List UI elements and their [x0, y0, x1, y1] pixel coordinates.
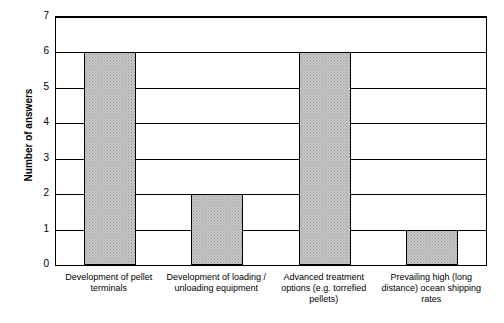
- bar-fill: [192, 195, 242, 264]
- y-tick-label: 2: [29, 188, 49, 198]
- y-tick-label: 1: [29, 224, 49, 234]
- x-category-label-line: Development of pellet: [55, 272, 163, 283]
- gridline: [56, 17, 486, 18]
- x-category-label-line: distance) ocean shipping: [378, 283, 486, 294]
- y-tick-label: 7: [29, 11, 49, 21]
- y-tick-label: 5: [29, 82, 49, 92]
- bar-fill: [407, 231, 457, 264]
- x-category-label-line: terminals: [55, 283, 163, 294]
- x-category-label-line: Advanced treatment: [270, 272, 378, 283]
- y-tick-label: 6: [29, 46, 49, 56]
- y-tick-label: 3: [29, 153, 49, 163]
- bar-chart: Number of answers 01234567Development of…: [0, 0, 504, 323]
- bar-fill: [300, 53, 350, 264]
- bar: [191, 194, 243, 265]
- y-tick-label: 0: [29, 259, 49, 269]
- x-category-label-line: unloading equipment: [163, 283, 271, 294]
- x-category-label-line: Prevailing high (long: [378, 272, 486, 283]
- x-category-label-line: rates: [378, 294, 486, 305]
- bar: [406, 230, 458, 265]
- x-category-label-line: options (e.g. torrefied: [270, 283, 378, 294]
- bar: [84, 52, 136, 265]
- x-category-label-line: pellets): [270, 294, 378, 305]
- x-category-label: Prevailing high (longdistance) ocean shi…: [378, 272, 486, 305]
- bar: [299, 52, 351, 265]
- x-category-label: Development of pelletterminals: [55, 272, 163, 294]
- bar-fill: [85, 53, 135, 264]
- plot-area: [55, 16, 487, 266]
- x-category-label: Development of loading /unloading equipm…: [163, 272, 271, 294]
- y-tick-label: 4: [29, 117, 49, 127]
- x-category-label-line: Development of loading /: [163, 272, 271, 283]
- x-category-label: Advanced treatmentoptions (e.g. torrefie…: [270, 272, 378, 305]
